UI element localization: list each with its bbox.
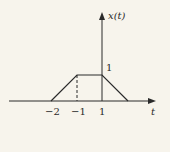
signal-trace bbox=[51, 75, 128, 101]
tick-label-neg1: −1 bbox=[71, 106, 86, 117]
tick-label-neg2: −2 bbox=[45, 106, 60, 117]
peak-label: 1 bbox=[106, 62, 112, 73]
t-axis-arrow-icon bbox=[148, 98, 156, 104]
x-axis-arrow-icon bbox=[99, 12, 105, 20]
x-axis-label: t bbox=[151, 106, 156, 117]
y-axis-label: x(t) bbox=[108, 10, 126, 21]
tick-label-1: 1 bbox=[99, 106, 105, 117]
signal-plot: x(t) 1 −2 −1 1 t bbox=[0, 0, 170, 152]
